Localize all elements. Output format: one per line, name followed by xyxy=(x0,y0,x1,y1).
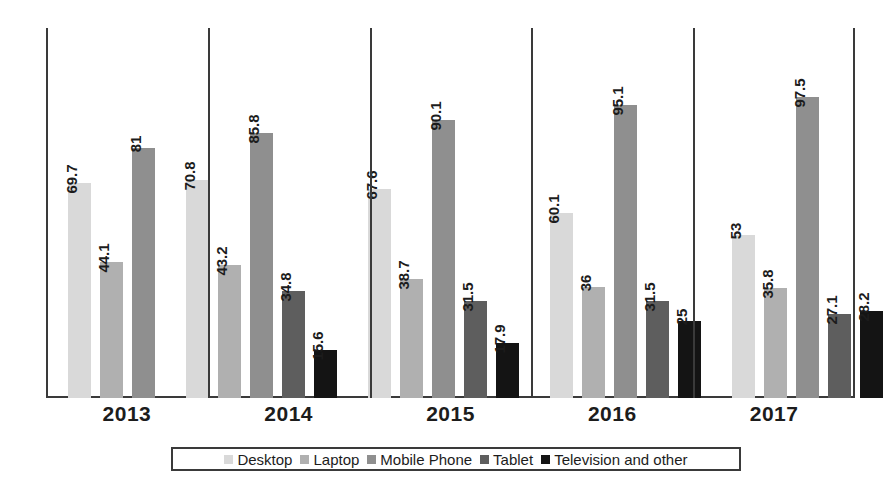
legend-item-television-and-other[interactable]: Television and other xyxy=(541,451,687,468)
bar-group-2014: 70.843.285.834.815.6 xyxy=(164,28,346,398)
legend-label: Tablet xyxy=(493,451,533,468)
legend-label: Mobile Phone xyxy=(380,451,472,468)
bar-value-label: 97.5 xyxy=(791,79,808,108)
bar-slot-2017-mobile-phone: 97.5 xyxy=(796,28,819,398)
bar-value-label: 31.5 xyxy=(641,282,658,311)
bar-2017-laptop[interactable]: 35.8 xyxy=(764,288,787,398)
bar-2015-television-and-other[interactable]: 17.9 xyxy=(496,343,519,398)
chart-legend: DesktopLaptopMobile PhoneTabletTelevisio… xyxy=(171,447,741,471)
bar-slot-2016-laptop: 36 xyxy=(582,28,605,398)
bar-2016-television-and-other[interactable]: 25 xyxy=(678,321,701,398)
bar-value-label: 36 xyxy=(577,275,594,292)
legend-swatch-icon xyxy=(300,455,309,464)
bar-value-label: 69.7 xyxy=(63,164,80,193)
x-tick-2013: 2013 xyxy=(46,402,208,426)
bar-slot-2017-television-and-other: 28.2 xyxy=(860,28,883,398)
legend-swatch-icon xyxy=(480,455,489,464)
bar-slot-2014-television-and-other: 15.6 xyxy=(314,28,337,398)
bar-value-label: 27.1 xyxy=(823,296,840,325)
bar-2014-tablet[interactable]: 34.8 xyxy=(282,291,305,398)
bar-slot-2017-tablet: 27.1 xyxy=(828,28,851,398)
legend-item-laptop[interactable]: Laptop xyxy=(300,451,359,468)
bar-value-label: 60.1 xyxy=(545,194,562,223)
legend-item-mobile-phone[interactable]: Mobile Phone xyxy=(367,451,472,468)
bar-slot-2016-mobile-phone: 95.1 xyxy=(614,28,637,398)
bar-slot-2014-laptop: 43.2 xyxy=(218,28,241,398)
bar-value-label: 95.1 xyxy=(609,86,626,115)
bar-2014-television-and-other[interactable]: 15.6 xyxy=(314,350,337,398)
x-tick-2017: 2017 xyxy=(693,402,855,426)
bar-slot-2016-desktop: 60.1 xyxy=(550,28,573,398)
legend-label: Desktop xyxy=(237,451,292,468)
bar-2016-mobile-phone[interactable]: 95.1 xyxy=(614,105,637,398)
bar-value-label: 53 xyxy=(727,222,744,239)
bar-group-2015: 67.638.790.131.517.9 xyxy=(346,28,528,398)
bar-slot-2014-tablet: 34.8 xyxy=(282,28,305,398)
legend-item-tablet[interactable]: Tablet xyxy=(480,451,533,468)
bar-group-2017: 5335.897.527.128.2 xyxy=(710,28,892,398)
bar-slot-2014-desktop: 70.8 xyxy=(186,28,209,398)
group-separator-4 xyxy=(693,28,695,398)
bar-chart: 69.744.18170.843.285.834.815.667.638.790… xyxy=(0,0,892,494)
bar-2017-mobile-phone[interactable]: 97.5 xyxy=(796,97,819,398)
bar-value-label: 17.9 xyxy=(491,324,508,353)
bar-value-label: 81 xyxy=(127,136,144,153)
bar-2017-tablet[interactable]: 27.1 xyxy=(828,314,851,398)
legend-swatch-icon xyxy=(541,455,550,464)
bar-2016-desktop[interactable]: 60.1 xyxy=(550,213,573,398)
bar-2014-laptop[interactable]: 43.2 xyxy=(218,265,241,398)
bar-value-label: 28.2 xyxy=(855,292,872,321)
bar-slot-2017-laptop: 35.8 xyxy=(764,28,787,398)
x-tick-2015: 2015 xyxy=(370,402,532,426)
bar-slot-2015-tablet: 31.5 xyxy=(464,28,487,398)
bar-slot-2015-laptop: 38.7 xyxy=(400,28,423,398)
bar-2017-desktop[interactable]: 53 xyxy=(732,235,755,399)
bar-value-label: 35.8 xyxy=(759,269,776,298)
x-tick-2014: 2014 xyxy=(208,402,370,426)
bar-group-2013: 69.744.181 xyxy=(46,28,164,398)
bar-value-label: 38.7 xyxy=(395,260,412,289)
legend-item-desktop[interactable]: Desktop xyxy=(224,451,292,468)
legend-label: Television and other xyxy=(554,451,687,468)
bar-value-label: 31.5 xyxy=(459,282,476,311)
bar-value-label: 44.1 xyxy=(95,243,112,272)
x-axis-tick-labels: 20132014201520162017 xyxy=(46,402,855,426)
bar-slot-2015-mobile-phone: 90.1 xyxy=(432,28,455,398)
bar-value-label: 85.8 xyxy=(245,115,262,144)
bar-2015-mobile-phone[interactable]: 90.1 xyxy=(432,120,455,398)
bar-value-label: 34.8 xyxy=(277,272,294,301)
group-separator-1 xyxy=(208,28,210,398)
bar-2013-desktop[interactable]: 69.7 xyxy=(68,183,91,398)
bar-2015-laptop[interactable]: 38.7 xyxy=(400,279,423,398)
bar-2017-television-and-other[interactable]: 28.2 xyxy=(860,311,883,398)
bar-slot-2016-television-and-other: 25 xyxy=(678,28,701,398)
legend-label: Laptop xyxy=(313,451,359,468)
bar-slot-2013-desktop: 69.7 xyxy=(68,28,91,398)
bar-value-label: 90.1 xyxy=(427,101,444,130)
bar-value-label: 43.2 xyxy=(213,246,230,275)
bar-value-label: 70.8 xyxy=(181,161,198,190)
bar-2013-mobile-phone[interactable]: 81 xyxy=(132,148,155,398)
bar-slot-2013-laptop: 44.1 xyxy=(100,28,123,398)
bar-group-2016: 60.13695.131.525 xyxy=(528,28,710,398)
legend-swatch-icon xyxy=(224,455,233,464)
legend-swatch-icon xyxy=(367,455,376,464)
x-tick-2016: 2016 xyxy=(531,402,693,426)
bar-2016-laptop[interactable]: 36 xyxy=(582,287,605,398)
bar-value-label: 25 xyxy=(673,309,690,326)
bar-2016-tablet[interactable]: 31.5 xyxy=(646,301,669,398)
bar-slot-2014-mobile-phone: 85.8 xyxy=(250,28,273,398)
bar-2014-desktop[interactable]: 70.8 xyxy=(186,180,209,398)
bar-slot-2016-tablet: 31.5 xyxy=(646,28,669,398)
bar-groups: 69.744.18170.843.285.834.815.667.638.790… xyxy=(46,28,855,398)
bar-2014-mobile-phone[interactable]: 85.8 xyxy=(250,133,273,398)
bar-value-label: 15.6 xyxy=(309,331,326,360)
bar-slot-2017-desktop: 53 xyxy=(732,28,755,398)
bar-slot-2013-mobile-phone: 81 xyxy=(132,28,155,398)
bar-2013-laptop[interactable]: 44.1 xyxy=(100,262,123,398)
bar-slot-2015-television-and-other: 17.9 xyxy=(496,28,519,398)
bar-2015-tablet[interactable]: 31.5 xyxy=(464,301,487,398)
group-separator-2 xyxy=(370,28,372,398)
group-separator-3 xyxy=(531,28,533,398)
